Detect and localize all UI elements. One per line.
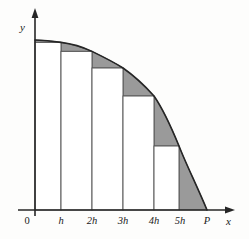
tick-label-2h: 2h bbox=[87, 215, 98, 226]
x-axis-arrowhead bbox=[225, 207, 235, 214]
y-axis-arrowhead bbox=[32, 8, 39, 18]
tick-label-0: 0 bbox=[24, 215, 29, 226]
figure-canvas: y x 0 h 2h 3h 4h 5h P bbox=[0, 0, 249, 239]
bar-0-h bbox=[35, 42, 61, 210]
tick-label-3h: 3h bbox=[117, 215, 129, 226]
tick-label-P: P bbox=[203, 215, 211, 226]
bar-4h-5h bbox=[154, 146, 179, 210]
bar-3h-4h bbox=[123, 96, 154, 210]
bar-2h-3h bbox=[92, 68, 123, 210]
y-axis-label: y bbox=[19, 21, 25, 33]
tick-label-5h: 5h bbox=[175, 215, 186, 226]
tick-label-4h: 4h bbox=[149, 215, 160, 226]
x-tick-labels: 0 h 2h 3h 4h 5h P bbox=[24, 215, 210, 226]
bar-h-2h bbox=[61, 51, 92, 210]
tick-label-h: h bbox=[58, 215, 63, 226]
x-axis-label: x bbox=[225, 215, 231, 227]
riemann-sum-figure: y x 0 h 2h 3h 4h 5h P bbox=[0, 0, 249, 239]
